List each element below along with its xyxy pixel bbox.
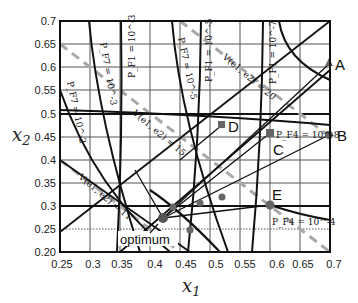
point-C-label: C — [273, 141, 284, 158]
svg-text:0.7: 0.7 — [326, 258, 341, 270]
svg-text:0.65: 0.65 — [35, 38, 56, 50]
y-tick-labels: 0.7 0.65 0.6 0.55 0.5 0.45 0.4 0.35 0.3 … — [35, 15, 56, 258]
svg-text:0.55: 0.55 — [234, 258, 255, 270]
svg-text:0.3: 0.3 — [41, 200, 56, 212]
svg-text:0.45: 0.45 — [175, 258, 196, 270]
svg-text:0.5: 0.5 — [41, 108, 56, 120]
svg-text:P_F4 = 10^-4: P_F4 = 10^-4 — [272, 217, 336, 228]
x-axis-label: x1 — [182, 275, 200, 299]
svg-text:0.55: 0.55 — [35, 84, 56, 96]
svg-text:P_F4 = 10^-8: P_F4 = 10^-8 — [276, 130, 340, 141]
chart: 0.7 0.65 0.6 0.55 0.5 0.45 0.4 0.35 0.3 … — [0, 0, 358, 303]
svg-text:0.4: 0.4 — [147, 258, 162, 270]
svg-text:0.45: 0.45 — [35, 131, 56, 143]
point-D-label: D — [228, 118, 239, 135]
x-tick-labels: 0.25 0.3 0.35 0.4 0.45 0.5 0.55 0.6 0.65… — [51, 258, 341, 270]
point-C-marker — [266, 129, 274, 137]
svg-text:0.25: 0.25 — [51, 258, 72, 270]
optimum-label: optimum — [120, 232, 170, 247]
point-E-label: E — [272, 186, 282, 203]
svg-text:0.6: 0.6 — [269, 258, 284, 270]
point-D-marker — [218, 121, 225, 128]
y-axis-label: x2 — [12, 124, 30, 148]
svg-text:P_F1 = 10^-5: P_F1 = 10^-5 — [204, 18, 215, 82]
svg-text:0.5: 0.5 — [208, 258, 223, 270]
svg-text:0.6: 0.6 — [41, 61, 56, 73]
svg-text:P_F1 = 10^-3: P_F1 = 10^-3 — [127, 14, 138, 78]
optimum-marker — [158, 213, 168, 223]
point-B-label: B — [337, 127, 347, 144]
svg-text:0.35: 0.35 — [111, 258, 132, 270]
svg-text:0.7: 0.7 — [41, 15, 56, 27]
svg-text:P_F1 = 10^-7: P_F1 = 10^-7 — [268, 20, 279, 84]
svg-text:0.65: 0.65 — [292, 258, 313, 270]
svg-text:0.20: 0.20 — [35, 246, 56, 258]
point-A-label: A — [335, 56, 345, 73]
svg-text:0.4: 0.4 — [41, 154, 56, 166]
svg-text:0.35: 0.35 — [35, 177, 56, 189]
svg-text:0.3: 0.3 — [85, 258, 100, 270]
svg-text:0.25: 0.25 — [35, 223, 56, 235]
